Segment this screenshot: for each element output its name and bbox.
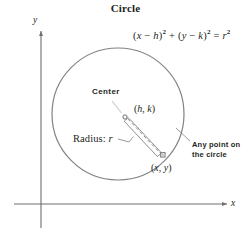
radius-label-text: Radius: (73, 133, 109, 144)
center-coordinates-label: (h, k) (134, 104, 155, 114)
xy-paren-close: ) (168, 162, 171, 173)
circle-equation: (x − h)2 + (y − k)2 = r2 (133, 29, 230, 41)
radius-leader-line (118, 137, 134, 143)
any-point-line-2: the circle (192, 150, 240, 160)
center-leader-line (112, 101, 122, 113)
center-dot (123, 115, 127, 119)
radius-dashed-line (128, 119, 161, 154)
equation-equals: = (211, 30, 223, 41)
any-point-line-1: Any point on (192, 140, 240, 150)
x-axis-label: x (231, 199, 235, 209)
radius-label: Radius: r (73, 134, 113, 145)
circle-diagram-figure: Circle (x − h)2 + (y − k)2 = r2 y x Cent… (0, 0, 251, 234)
any-point-leader-line (176, 128, 190, 141)
hk-paren-close: ) (152, 103, 155, 114)
radius-rod (124, 118, 161, 157)
point-coordinates-label: (x, y) (151, 163, 172, 173)
equation-exponent-3: 2 (227, 28, 231, 36)
radius-variable: r (109, 133, 113, 144)
figure-title: Circle (0, 3, 251, 14)
y-axis-label: y (33, 16, 37, 26)
any-point-callout: Any point onthe circle (192, 140, 240, 160)
center-callout-label: Center (92, 88, 120, 96)
equation-minus-2: − (187, 30, 199, 41)
equation-plus: + (166, 30, 178, 41)
circle-shape (52, 48, 184, 180)
equation-minus-1: − (142, 30, 154, 41)
